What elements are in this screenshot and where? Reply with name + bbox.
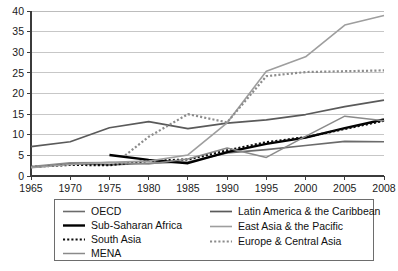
legend-item-label: South Asia: [91, 234, 141, 245]
gridlines: [31, 11, 384, 155]
y-tick-label: 5: [18, 149, 24, 161]
legend-item-label: MENA: [91, 248, 121, 259]
legend-line-swatch: [62, 220, 86, 231]
legend-item[interactable]: Latin America & the Caribbean: [209, 205, 373, 218]
legend-line-swatch: [62, 248, 86, 259]
chart-container: 0510152025303540 19651970197519801985199…: [0, 0, 398, 271]
series-line: [31, 16, 384, 168]
y-tick-label: 20: [12, 87, 24, 99]
legend-item[interactable]: MENA: [62, 248, 209, 260]
x-tick-label: 1965: [19, 182, 43, 194]
series-line: [31, 121, 384, 167]
legend-line-swatch: [209, 206, 233, 217]
legend-item-label: East Asia & the Pacific: [238, 221, 343, 232]
legend-line-swatch: [209, 221, 233, 232]
series-lines: [31, 16, 384, 168]
y-tick-label: 35: [12, 25, 24, 37]
y-tick-label: 0: [18, 170, 24, 182]
legend-columns: OECDSub-Saharan AfricaSouth AsiaMENALati…: [55, 200, 373, 260]
chart-legend: OECDSub-Saharan AfricaSouth AsiaMENALati…: [54, 199, 374, 261]
legend-item[interactable]: East Asia & the Pacific: [209, 220, 373, 233]
x-tick-label: 1975: [98, 182, 122, 194]
legend-line-swatch: [209, 236, 233, 247]
x-tick-label: 1990: [215, 182, 239, 194]
legend-item[interactable]: South Asia: [62, 234, 209, 246]
legend-column: Latin America & the CaribbeanEast Asia &…: [209, 205, 373, 260]
y-tick-label: 10: [12, 128, 24, 140]
y-tick-labels: 0510152025303540: [12, 5, 24, 182]
y-tick-label: 40: [12, 5, 24, 17]
series-line: [125, 70, 384, 155]
y-axis: [27, 11, 31, 176]
legend-item-label: Sub-Saharan Africa: [91, 220, 182, 231]
y-tick-label: 15: [12, 108, 24, 120]
x-tick-label: 2008: [372, 182, 396, 194]
legend-item[interactable]: OECD: [62, 205, 209, 217]
legend-column: OECDSub-Saharan AfricaSouth AsiaMENA: [62, 205, 209, 260]
legend-item-label: OECD: [91, 206, 121, 217]
x-tick-label: 1980: [137, 182, 161, 194]
x-tick-labels: 1965197019751980198519901995200020052008: [19, 182, 396, 194]
legend-line-swatch: [62, 206, 86, 217]
series-line: [31, 116, 384, 166]
x-tick-label: 1985: [176, 182, 200, 194]
x-tick-label: 2000: [294, 182, 318, 194]
x-tick-label: 1970: [59, 182, 83, 194]
legend-item-label: Latin America & the Caribbean: [238, 206, 380, 217]
y-tick-label: 25: [12, 67, 24, 79]
x-axis: [31, 176, 384, 180]
x-tick-label: 2005: [333, 182, 357, 194]
y-tick-label: 30: [12, 46, 24, 58]
x-tick-label: 1995: [255, 182, 279, 194]
legend-item[interactable]: Sub-Saharan Africa: [62, 219, 209, 231]
legend-line-swatch: [62, 234, 86, 245]
legend-item[interactable]: Europe & Central Asia: [209, 235, 373, 248]
legend-item-label: Europe & Central Asia: [238, 236, 341, 247]
